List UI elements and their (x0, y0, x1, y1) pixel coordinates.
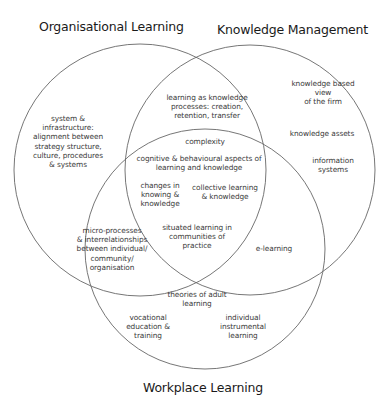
label-km-info-systems: information systems (305, 156, 361, 174)
venn-circles (0, 0, 389, 409)
label-ol-wl: micro-processes & interrelationships bet… (77, 226, 148, 272)
label-cognitive-behavioural: cognitive & behavioural aspects of learn… (137, 154, 262, 172)
label-individual-instrumental: individual instrumental learning (220, 313, 266, 341)
label-situated-learning: situated learning in communities of prac… (162, 223, 232, 251)
label-vocational: vocational education & training (126, 313, 170, 341)
label-km-view-of-firm: knowledge based view of the firm (290, 79, 356, 107)
label-adult-learning: theories of adult learning (167, 290, 226, 308)
title-organisational-learning: Organisational Learning (39, 19, 184, 34)
label-complexity: complexity (185, 137, 225, 146)
title-workplace-learning: Workplace Learning (143, 380, 263, 395)
title-knowledge-management: Knowledge Management (217, 22, 368, 37)
label-changes-in-knowing: changes in knowing & knowledge (140, 181, 179, 209)
label-collective-learning: collective learning & knowledge (192, 183, 258, 201)
label-ol-only: system & infrastructure: alignment betwe… (33, 114, 103, 169)
label-e-learning: e-learning (256, 244, 292, 253)
label-ol-km: learning as knowledge processes: creatio… (166, 93, 247, 121)
label-km-assets: knowledge assets (290, 129, 354, 138)
